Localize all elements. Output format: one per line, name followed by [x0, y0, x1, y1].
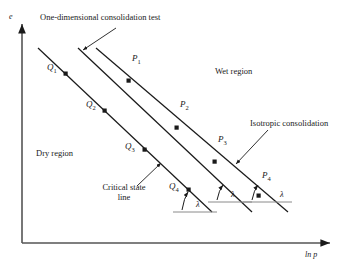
- point-label-P3-sub: 3: [224, 139, 227, 146]
- lambda-label-middle: λ: [231, 189, 235, 199]
- lambda-arc-right: [252, 185, 258, 200]
- point-label-P1: P1: [132, 53, 141, 65]
- point-label-Q1-sub: 1: [54, 67, 57, 74]
- marker-Q2: [103, 109, 107, 113]
- marker-Q4: [187, 188, 191, 192]
- marker-P1: [127, 79, 131, 83]
- lambda-label-left: λ: [196, 199, 200, 209]
- point-label-Q2: Q2: [86, 99, 96, 111]
- isotropic-leader: [236, 130, 268, 164]
- point-label-Q1: Q1: [47, 62, 57, 74]
- lambda-arc-middle: [217, 185, 223, 200]
- point-label-Q2-sub: 2: [93, 104, 96, 111]
- point-label-P1-sub: 1: [138, 58, 141, 65]
- one-dim-leader: [83, 28, 116, 50]
- point-label-P2-sub: 2: [186, 104, 189, 111]
- marker-P3: [213, 160, 217, 164]
- lambda-label-right: λ: [280, 189, 284, 199]
- point-label-Q4: Q4: [169, 181, 179, 193]
- point-label-P3: P3: [218, 134, 227, 146]
- marker-P2: [175, 126, 179, 130]
- dry-region-label: Dry region: [36, 148, 73, 158]
- critical-state-line-annotation-line1: Critical state: [88, 182, 160, 192]
- data-point-markers: [64, 72, 261, 198]
- diagram-canvas: [0, 0, 354, 272]
- lambda-marker-right: [243, 185, 292, 202]
- lambda-arc-left: [182, 192, 188, 210]
- point-label-Q4-sub: 4: [176, 186, 179, 193]
- point-label-P2: P2: [180, 99, 189, 111]
- critical-state-line-annotation-line2: line: [88, 192, 160, 202]
- wet-region-label: Wet region: [215, 66, 252, 76]
- marker-P4: [257, 194, 261, 198]
- leader-lines: [83, 28, 268, 186]
- lambda-marker-middle: [208, 185, 252, 202]
- marker-Q1: [64, 72, 68, 76]
- one-dimensional-consolidation-annotation: One-dimensional consolidation test: [40, 12, 160, 22]
- consolidation-diagram: e ln p One-dimensional consolidation tes…: [0, 0, 354, 272]
- point-label-P4: P4: [262, 170, 271, 182]
- isotropic-consolidation-annotation: Isotropic consolidation: [250, 118, 328, 128]
- y-axis-label: e: [9, 12, 13, 21]
- point-label-P4-sub: 4: [268, 175, 271, 182]
- marker-Q3: [143, 148, 147, 152]
- axes-group: [22, 24, 330, 243]
- x-axis-label: ln p: [305, 250, 317, 259]
- point-label-Q3-sub: 3: [132, 146, 135, 153]
- point-label-Q3: Q3: [125, 141, 135, 153]
